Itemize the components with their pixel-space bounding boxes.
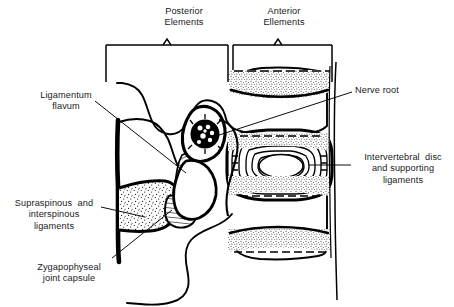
- disc-nucleus: [259, 155, 303, 178]
- inferior-articular-process: [174, 160, 217, 219]
- callout-label-zygapophyseal-joint-capsule: Zygapophyseal joint capsule: [16, 262, 122, 285]
- nerve-root-body: [191, 120, 220, 149]
- callout-label-nerve-root: Nerve root: [355, 85, 450, 96]
- callout-label-intervertebral-disc: Intervertebral disc and supporting ligam…: [353, 152, 453, 186]
- upper-endplate-stipple: [225, 66, 335, 106]
- bracket-anterior-tick: [274, 39, 282, 45]
- bracket-posterior: [106, 45, 228, 82]
- callout-label-ligamentum-flavum: Ligamentum flavum: [18, 90, 114, 113]
- supraspinous-ligament-border: [117, 120, 119, 262]
- bracket-posterior-tick: [163, 39, 171, 45]
- bracket-label-posterior-elements: Posterior Elements: [143, 6, 225, 29]
- figure-canvas: Posterior Elements Anterior Ellements Li…: [0, 0, 454, 307]
- bracket-label-anterior-elements: Anterior Ellements: [243, 6, 325, 29]
- callout-label-supraspinous-interspinous-ligaments: Supraspinous and interspinous ligaments: [2, 198, 106, 232]
